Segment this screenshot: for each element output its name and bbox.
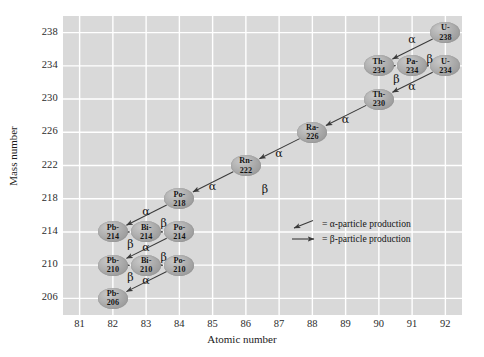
nuclide-mass: 210	[107, 265, 119, 274]
beta-arrow-icon	[288, 233, 318, 245]
nuclide-symbol: Pb-	[107, 256, 119, 265]
legend-row-beta: = β-particle production	[288, 231, 411, 246]
decay-label: α	[142, 241, 149, 254]
x-tick-label: 92	[430, 318, 460, 329]
y-tick-label: 210	[18, 258, 58, 269]
y-tick-label: 214	[18, 225, 58, 236]
nuclide-mass: 234	[439, 66, 451, 75]
decay-label: β	[262, 183, 268, 196]
nuclide-symbol: Ra-	[306, 123, 319, 132]
x-tick-label: 81	[65, 318, 95, 329]
y-tick-label: 234	[18, 59, 58, 70]
nuclide-mass: 234	[406, 66, 418, 75]
x-tick-label: 90	[364, 318, 394, 329]
decay-label: β	[127, 271, 133, 284]
decay-label: β	[127, 238, 133, 251]
nuclide-symbol: Bi-	[141, 223, 151, 232]
x-tick-label: 91	[397, 318, 427, 329]
nuclide-mass: 234	[373, 66, 385, 75]
nuclide-symbol: Po-	[173, 190, 185, 199]
y-tick-label: 222	[18, 159, 58, 170]
y-axis-title: Mass number	[7, 106, 19, 206]
nuclide-node-bi-210[interactable]: Bi-210	[131, 255, 161, 276]
decay-label: α	[275, 147, 282, 160]
nuclide-symbol: Th-	[373, 90, 386, 99]
x-tick-label: 84	[164, 318, 194, 329]
nuclide-symbol: U-	[441, 23, 450, 32]
nuclide-mass: 214	[107, 232, 119, 241]
y-tick-label: 238	[18, 26, 58, 37]
nuclide-mass: 238	[439, 33, 451, 42]
decay-label: α	[408, 80, 415, 93]
nuclide-symbol: U-	[441, 57, 450, 66]
nuclide-node-pb-206[interactable]: Pb-206	[98, 288, 128, 309]
nuclide-symbol: Rn-	[239, 156, 252, 165]
nuclide-symbol: Pb-	[107, 289, 119, 298]
decay-label: α	[142, 274, 149, 287]
x-tick-label: 86	[231, 318, 261, 329]
decay-label: β	[393, 73, 399, 86]
nuclide-node-ra-226[interactable]: Ra-226	[297, 122, 327, 143]
nuclide-symbol: Th-	[373, 57, 386, 66]
nuclide-symbol: Pb-	[107, 223, 119, 232]
nuclide-node-pb-210[interactable]: Pb-210	[98, 255, 128, 276]
nuclide-mass: 210	[173, 265, 185, 274]
decay-label: β	[160, 217, 166, 230]
x-tick-label: 88	[297, 318, 327, 329]
nuclide-symbol: Bi-	[141, 256, 151, 265]
nuclide-mass: 222	[240, 166, 252, 175]
y-tick-label: 218	[18, 192, 58, 203]
x-tick-label: 85	[198, 318, 228, 329]
decay-label: α	[408, 33, 415, 46]
decay-label: α	[209, 180, 216, 193]
nuclide-node-th-230[interactable]: Th-230	[364, 89, 394, 110]
decay-label: β	[426, 53, 432, 66]
alpha-arrow-icon	[288, 218, 318, 230]
legend: = α-particle production = β-particle pro…	[288, 216, 411, 246]
y-tick-label: 230	[18, 92, 58, 103]
nuclide-mass: 230	[373, 99, 385, 108]
nuclide-mass: 214	[173, 232, 185, 241]
nuclide-mass: 218	[173, 199, 185, 208]
nuclide-symbol: Po-	[173, 223, 185, 232]
legend-label-alpha: = α-particle production	[322, 218, 411, 229]
legend-row-alpha: = α-particle production	[288, 216, 411, 231]
decay-series-chart: 206210214218222226230234238 818283848586…	[0, 0, 484, 357]
x-tick-label: 87	[264, 318, 294, 329]
y-tick-label: 206	[18, 291, 58, 302]
x-tick-label: 83	[131, 318, 161, 329]
x-axis-title: Atomic number	[0, 333, 484, 345]
nuclide-mass: 206	[107, 298, 119, 307]
decay-label: α	[142, 205, 149, 218]
nuclide-node-po-210[interactable]: Po-210	[164, 255, 194, 276]
nuclide-symbol: Pa-	[406, 57, 418, 66]
legend-label-beta: = β-particle production	[322, 233, 411, 244]
nuclide-node-rn-222[interactable]: Rn-222	[231, 155, 261, 176]
decay-label: α	[342, 113, 349, 126]
x-tick-label: 82	[98, 318, 128, 329]
nuclide-mass: 226	[306, 132, 318, 141]
decay-label: β	[160, 251, 166, 264]
x-tick-label: 89	[331, 318, 361, 329]
y-tick-label: 226	[18, 125, 58, 136]
nuclide-symbol: Po-	[173, 256, 185, 265]
